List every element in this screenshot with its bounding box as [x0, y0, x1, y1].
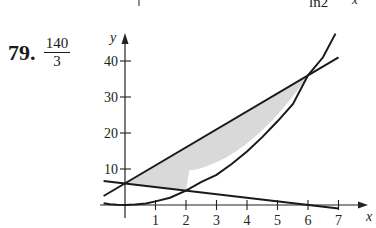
svg-text:3: 3 — [213, 213, 220, 228]
svg-text:1: 1 — [152, 213, 159, 228]
x-axis-label: x — [365, 209, 373, 224]
y-tick-labels: 10 20 30 40 — [104, 54, 118, 177]
svg-text:5: 5 — [274, 213, 281, 228]
svg-text:2: 2 — [183, 213, 190, 228]
svg-text:30: 30 — [104, 90, 118, 105]
x-tick-labels: 1 2 3 4 5 6 7 — [152, 213, 342, 228]
svg-text:10: 10 — [104, 162, 118, 177]
svg-text:20: 20 — [104, 126, 118, 141]
y-axis-arrow-icon — [122, 33, 129, 44]
svg-text:6: 6 — [305, 213, 312, 228]
x-axis-arrow-icon — [358, 202, 368, 209]
y-axis-label: y — [108, 30, 117, 45]
svg-text:7: 7 — [335, 213, 342, 228]
svg-text:4: 4 — [244, 213, 251, 228]
line-5x-plus-6 — [104, 57, 339, 196]
chart: 1 2 3 4 5 6 7 x 10 20 30 40 y — [0, 0, 376, 228]
svg-text:40: 40 — [104, 54, 118, 69]
